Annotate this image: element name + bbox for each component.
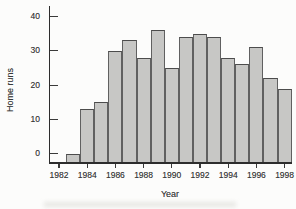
y-tick-label-40: 40 xyxy=(15,12,40,21)
x-tick-1994 xyxy=(228,164,229,169)
y-tick-30 xyxy=(50,50,58,51)
bar-1998 xyxy=(278,89,292,163)
x-axis-title: Year xyxy=(161,189,179,199)
x-tick-1984 xyxy=(87,164,88,169)
bar-1986 xyxy=(108,51,122,163)
x-tick-label-1984: 1984 xyxy=(73,171,101,180)
y-tick-20 xyxy=(50,85,58,86)
bar-1988 xyxy=(137,58,151,163)
bar-1990 xyxy=(165,68,179,163)
x-tick-1996 xyxy=(256,164,257,169)
bar-1992 xyxy=(193,34,207,164)
bar-1985 xyxy=(94,102,108,163)
bar-1996 xyxy=(249,47,263,163)
x-tick-1988 xyxy=(143,164,144,169)
scan-artifact-smudge xyxy=(44,202,236,207)
y-axis-title: Home runs xyxy=(5,68,15,112)
y-tick-label-0: 0 xyxy=(15,149,40,158)
home-runs-bar-chart: Home runs 010203040198219841986198819901… xyxy=(0,0,296,209)
x-tick-1982 xyxy=(58,164,59,169)
bar-1989 xyxy=(151,30,165,163)
bar-1991 xyxy=(179,37,193,163)
bar-1995 xyxy=(235,64,249,163)
x-tick-label-1986: 1986 xyxy=(101,171,129,180)
bar-1993 xyxy=(207,37,221,163)
y-tick-10 xyxy=(50,119,58,120)
x-tick-label-1982: 1982 xyxy=(45,171,73,180)
y-tick-label-20: 20 xyxy=(15,81,40,90)
x-tick-1992 xyxy=(199,164,200,169)
x-tick-label-1990: 1990 xyxy=(158,171,186,180)
x-tick-1990 xyxy=(171,164,172,169)
x-tick-1998 xyxy=(284,164,285,169)
bar-1987 xyxy=(122,40,136,163)
y-tick-label-10: 10 xyxy=(15,115,40,124)
y-tick-label-30: 30 xyxy=(15,46,40,55)
bar-1994 xyxy=(221,58,235,163)
bar-1997 xyxy=(263,78,277,163)
x-tick-label-1998: 1998 xyxy=(271,171,296,180)
bar-1984 xyxy=(80,109,94,163)
x-tick-label-1992: 1992 xyxy=(186,171,214,180)
x-tick-label-1988: 1988 xyxy=(130,171,158,180)
x-tick-label-1994: 1994 xyxy=(214,171,242,180)
y-tick-0 xyxy=(50,153,58,154)
x-tick-label-1996: 1996 xyxy=(242,171,270,180)
y-tick-40 xyxy=(50,16,58,17)
x-tick-1986 xyxy=(115,164,116,169)
